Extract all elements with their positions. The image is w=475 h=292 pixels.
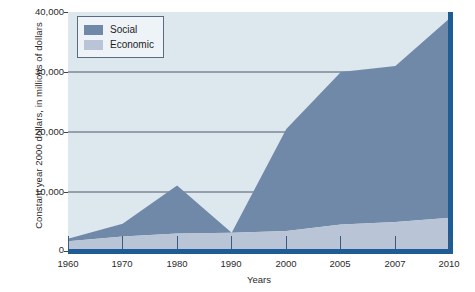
x-tick-mark-2000	[286, 236, 287, 249]
legend-swatch-economic-icon	[84, 40, 103, 50]
chart-legend: Social Economic	[77, 16, 164, 58]
x-tick-mark-1980	[177, 236, 178, 249]
x-axis-title: Years	[68, 274, 450, 285]
x-tick-mark-2010	[449, 236, 450, 249]
area-chart-figure: Constant year 2000 dollars, in millions …	[0, 0, 475, 292]
legend-item-social: Social	[84, 22, 154, 37]
x-tick-label-2000: 2000	[263, 258, 309, 269]
x-tick-label-1980: 1980	[154, 258, 200, 269]
x-tick-label-1960: 1960	[45, 258, 91, 269]
x-tick-label-1970: 1970	[99, 258, 145, 269]
legend-label-economic: Economic	[110, 39, 154, 50]
x-tick-label-2010: 2010	[426, 258, 472, 269]
x-tick-label-1990: 1990	[208, 258, 254, 269]
legend-label-social: Social	[110, 24, 137, 35]
x-tick-mark-2005	[340, 236, 341, 249]
legend-item-economic: Economic	[84, 37, 154, 52]
x-tick-mark-2007	[395, 236, 396, 249]
x-tick-mark-1990	[231, 236, 232, 249]
x-tick-label-2005: 2005	[317, 258, 363, 269]
legend-swatch-social-icon	[84, 25, 103, 35]
x-tick-mark-1970	[122, 236, 123, 249]
x-axis-ticks: 1960 1970 1980 1990 2000 2005 2007 2010	[0, 0, 475, 292]
x-tick-mark-1960	[68, 236, 69, 249]
x-tick-label-2007: 2007	[372, 258, 418, 269]
